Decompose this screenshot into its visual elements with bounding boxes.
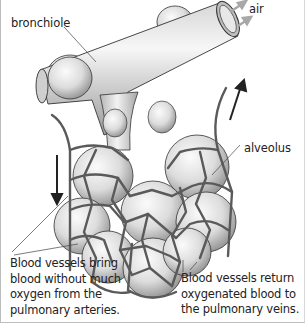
left-caption-line-4: pulmonary arteries. <box>10 303 121 319</box>
flow-arrow-up <box>230 80 246 120</box>
left-caption: Blood vessels bring blood without much o… <box>10 256 121 318</box>
bronchiole-label: bronchiole <box>11 16 70 31</box>
left-caption-line-1: Blood vessels bring <box>10 256 121 272</box>
alveolus-label: alveolus <box>244 141 291 156</box>
air-label: air <box>249 2 264 17</box>
right-caption-line-1: Blood vessels return <box>181 271 299 287</box>
right-caption-line-3: the pulmonary veins. <box>181 302 299 318</box>
left-caption-line-3: oxygen from the <box>10 287 121 303</box>
right-caption-line-2: oxygenated blood to <box>181 287 299 303</box>
flow-arrow-down <box>52 155 62 204</box>
right-caption: Blood vessels return oxygenated blood to… <box>181 271 299 318</box>
left-caption-line-2: blood without much <box>10 272 121 288</box>
